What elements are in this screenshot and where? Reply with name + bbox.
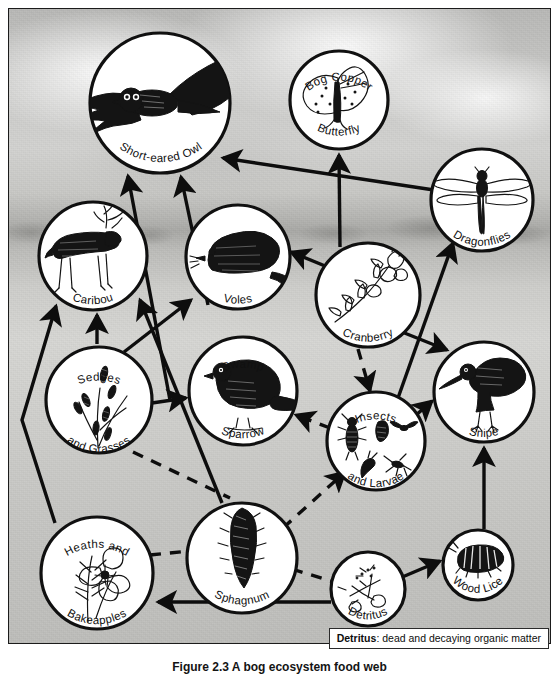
food-web-diagram: Short-eared Owl Bog Co (0, 0, 543, 636)
link-cranberry-butterfly (339, 155, 340, 247)
node-heaths-and-bakeapples[interactable]: Heaths and Bakeapples (41, 517, 153, 629)
detritus-definition-box: Detritus: dead and decaying organic matt… (329, 628, 549, 649)
link-sphagnum-insects (283, 472, 345, 528)
link-detritus-woodlice (400, 561, 440, 578)
node-bog-copper-butterfly[interactable]: Bog Copper Butterfly (290, 51, 388, 149)
link-heaths-sphagnum (150, 551, 189, 555)
food-web-figure: Short-eared Owl Bog Co (0, 0, 559, 675)
node-label-voles: Voles (223, 292, 254, 306)
node-insects-and-larvae[interactable]: Insects and Larvae (327, 392, 425, 490)
link-sphagnum-detritus (292, 569, 334, 582)
node-cranberry[interactable]: Cranberry (316, 240, 420, 347)
link-cranberry-insects (358, 349, 370, 391)
node-sphagnum[interactable]: Sphagnum (187, 503, 297, 613)
node-sedges-and-grasses[interactable]: Sedges and Grasses (46, 347, 152, 455)
link-insects-sparrow (296, 415, 330, 428)
node-dragonflies[interactable]: Dragonflies (431, 149, 533, 251)
node-snipe[interactable]: Snipe (434, 342, 534, 442)
node-swamp-sparrow[interactable]: Swamp Sparrow (189, 337, 308, 445)
node-short-eared-owl[interactable]: Short-eared Owl (72, 33, 258, 173)
link-dragonflies-owl (223, 158, 434, 190)
node-label-snipe: Snipe (468, 425, 500, 439)
node-wood-lice[interactable]: Wood Lice (443, 530, 513, 600)
node-caribou[interactable]: Caribou (39, 202, 147, 310)
node-detritus[interactable]: Detritus (331, 552, 405, 626)
node-voles[interactable]: Voles (186, 205, 297, 309)
definition-text: dead and decaying organic matter (382, 632, 541, 644)
link-cranberry-snipe (402, 332, 447, 350)
definition-term: Detritus (337, 632, 377, 644)
figure-caption: Figure 2.3 A bog ecosystem food web (0, 660, 559, 674)
